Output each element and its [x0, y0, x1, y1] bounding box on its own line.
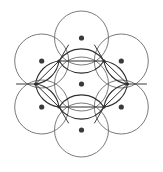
vertex-top-right-node — [102, 59, 105, 62]
vertex-bottom-left-node — [57, 105, 60, 108]
dot-upper-right — [119, 58, 124, 63]
vertex-right-node — [126, 82, 129, 85]
dot-top — [79, 35, 84, 40]
diagram-canvas — [0, 0, 163, 172]
vertex-left-node — [34, 82, 37, 85]
vertex-bottom-right-node — [102, 105, 105, 108]
dot-center — [79, 81, 84, 86]
dot-lower-left — [39, 104, 44, 109]
dot-bottom — [79, 127, 84, 132]
dot-upper-left — [39, 58, 44, 63]
seven-circle-hexagonal-packing-diagram — [0, 0, 163, 172]
vertex-top-left-node — [57, 59, 60, 62]
dot-lower-right — [119, 104, 124, 109]
